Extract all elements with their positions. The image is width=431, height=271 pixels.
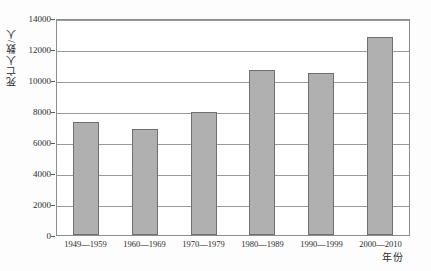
y-tick-mark <box>51 174 55 175</box>
x-tick-label: 1990—1999 <box>292 239 351 249</box>
plot-area <box>56 19 410 236</box>
y-tick-mark <box>51 143 55 144</box>
x-tick-label: 1949—1959 <box>56 239 115 249</box>
y-tick-mark <box>51 236 55 237</box>
x-axis-tick-labels: 1949—19591960—19691970—19791980—19891990… <box>56 239 410 249</box>
y-tick-label: 14000 <box>3 15 51 24</box>
clipped-caption-strip <box>0 0 431 7</box>
y-tick-mark <box>51 112 55 113</box>
chart-figure: 死亡人数/人 02000400060008000100001200014000 … <box>0 0 431 271</box>
y-tick-label: 2000 <box>3 201 51 210</box>
bar-series <box>57 20 409 235</box>
y-tick-label: 8000 <box>3 108 51 117</box>
x-tick-label: 1970—1979 <box>174 239 233 249</box>
bar <box>191 112 217 235</box>
bar <box>132 129 158 235</box>
y-tick-label: 10000 <box>3 77 51 86</box>
y-tick-label: 0 <box>3 232 51 241</box>
y-axis-ticks: 02000400060008000100001200014000 <box>0 19 51 236</box>
x-tick-label: 1960—1969 <box>115 239 174 249</box>
bar <box>308 73 334 235</box>
y-tick-mark <box>51 81 55 82</box>
y-tick-mark <box>51 19 55 20</box>
y-tick-label: 12000 <box>3 46 51 55</box>
x-tick-label: 2000—2010 <box>351 239 410 249</box>
bar <box>73 122 99 235</box>
y-tick-mark <box>51 205 55 206</box>
y-tick-mark <box>51 50 55 51</box>
y-tick-label: 4000 <box>3 170 51 179</box>
x-axis-title: 年份 <box>0 252 404 264</box>
x-tick-label: 1980—1989 <box>233 239 292 249</box>
bar <box>249 70 275 235</box>
y-tick-label: 6000 <box>3 139 51 148</box>
bar <box>367 37 393 235</box>
